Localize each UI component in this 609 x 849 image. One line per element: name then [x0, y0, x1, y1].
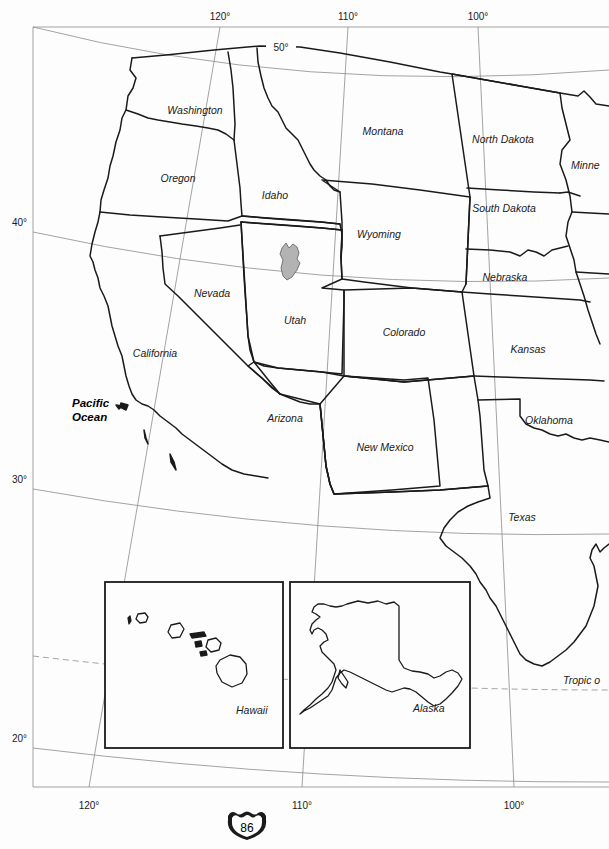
state-label-north-dakota: North Dakota: [472, 133, 534, 145]
latitude-label-20: 20°: [12, 733, 27, 744]
longitude-label-bottom-120: 120°: [79, 800, 100, 811]
state-label-new-mexico: New Mexico: [356, 441, 413, 453]
alaska-inset: Alaska: [290, 582, 470, 748]
state-label-nebraska: Nebraska: [483, 271, 528, 283]
state-label-kansas: Kansas: [510, 343, 546, 355]
state-label-texas: Texas: [508, 511, 536, 523]
state-label-utah: Utah: [284, 314, 306, 326]
state-label-oklahoma: Oklahoma: [525, 414, 573, 426]
longitude-label-bottom-110: 110°: [292, 800, 312, 811]
latitude-label-40: 40°: [12, 217, 27, 228]
state-label-california: California: [133, 347, 178, 359]
alaska-inset-label: Alaska: [412, 702, 445, 714]
state-label-minnesota: Minne: [571, 159, 600, 171]
island-niihau: [128, 616, 131, 624]
map-page: 120° 110° 100° 120° 110° 100° 50° 40° 30…: [0, 0, 609, 849]
island-lanai: [195, 641, 202, 647]
state-label-montana: Montana: [363, 125, 404, 137]
latitude-label-30: 30°: [12, 474, 27, 485]
state-label-idaho: Idaho: [262, 189, 288, 201]
tropic-of-cancer-label: Tropic o: [563, 674, 600, 686]
state-label-wyoming: Wyoming: [357, 228, 401, 240]
latitude-label-50: 50°: [273, 42, 288, 53]
state-label-nevada: Nevada: [194, 287, 230, 299]
longitude-label-top-110: 110°: [338, 11, 358, 22]
hawaii-inset: Hawaii: [105, 582, 283, 748]
alaska-inset-box: [290, 582, 470, 748]
state-label-colorado: Colorado: [383, 326, 426, 338]
hawaii-inset-box: [105, 582, 283, 748]
pacific-ocean-label-line1: Pacific: [72, 397, 110, 409]
page-number: 86: [240, 821, 254, 835]
state-label-oregon: Oregon: [160, 172, 195, 184]
longitude-label-top-100: 100°: [468, 11, 489, 22]
island-kahoolawe: [200, 651, 207, 656]
state-label-arizona: Arizona: [266, 412, 303, 424]
state-label-south-dakota: South Dakota: [472, 202, 536, 214]
hawaii-inset-label: Hawaii: [236, 704, 268, 716]
longitude-label-top-120: 120°: [210, 11, 231, 22]
pacific-ocean-label-line2: Ocean: [72, 411, 107, 423]
longitude-label-bottom-100: 100°: [504, 800, 525, 811]
state-label-washington: Washington: [167, 104, 222, 116]
